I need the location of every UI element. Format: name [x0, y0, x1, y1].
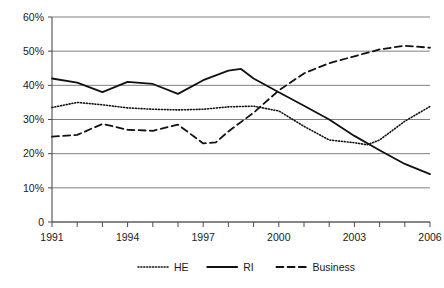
- y-axis-tick-labels: 010%20%30%40%50%60%: [23, 11, 44, 228]
- x-tick-label: 2003: [343, 231, 367, 243]
- x-tick-label: 1997: [192, 231, 216, 243]
- y-tick-label: 10%: [23, 182, 44, 194]
- x-axis-tickmarks: [52, 222, 430, 227]
- y-tick-label: 30%: [23, 113, 44, 125]
- series-layer: [52, 46, 430, 174]
- x-axis-tick-labels: 199119941997200020032006: [40, 231, 442, 243]
- plot-area: 010%20%30%40%50%60% 19911994199720002003…: [0, 0, 444, 250]
- chart-canvas: 010%20%30%40%50%60% 19911994199720002003…: [0, 0, 444, 250]
- legend-label-business: Business: [312, 261, 355, 273]
- y-tick-label: 0: [38, 216, 44, 228]
- x-tick-label: 2006: [418, 231, 442, 243]
- x-tick-label: 2000: [267, 231, 291, 243]
- y-tick-label: 60%: [23, 11, 44, 23]
- series-line-business: [52, 46, 430, 144]
- x-tick-label: 1991: [40, 231, 64, 243]
- legend-canvas: HERIBusiness: [0, 252, 444, 288]
- legend-label-ri: RI: [243, 261, 254, 273]
- series-line-he: [52, 102, 430, 144]
- y-tick-label: 20%: [23, 147, 44, 159]
- gridlines-group: [48, 17, 430, 222]
- line-chart: 010%20%30%40%50%60% 19911994199720002003…: [0, 0, 444, 288]
- legend-label-he: HE: [174, 261, 189, 273]
- y-tick-label: 40%: [23, 79, 44, 91]
- y-tick-label: 50%: [23, 45, 44, 57]
- chart-legend: HERIBusiness: [0, 252, 444, 288]
- x-tick-label: 1994: [116, 231, 140, 243]
